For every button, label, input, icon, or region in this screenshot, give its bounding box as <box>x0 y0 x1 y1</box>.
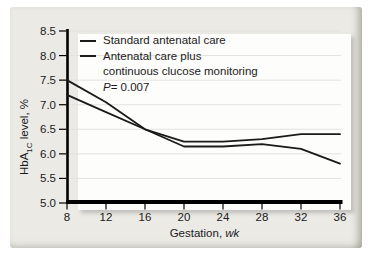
x-axis-title-text: Gestation, <box>170 227 226 239</box>
x-axis-title: Gestation, wk <box>68 227 341 239</box>
y-tick-label: 8.0 <box>40 50 56 62</box>
x-tick-label: 12 <box>100 211 113 223</box>
x-tick-label: 8 <box>64 211 70 223</box>
p-value-annotation: P = 0.007 <box>80 80 258 96</box>
legend-item-standard-care: Standard antenatal care <box>80 33 258 49</box>
x-tick-label: 16 <box>139 211 152 223</box>
legend-label-cgm-line1: Antenatal care plus <box>103 49 201 65</box>
x-tick-label: 20 <box>178 211 191 223</box>
p-value-symbol: P <box>103 80 111 96</box>
y-tick-label: 5.5 <box>40 172 56 184</box>
standard-care-line-swatch <box>80 40 96 42</box>
y-tick-label: 6.5 <box>40 123 56 135</box>
legend-label-standard-care: Standard antenatal care <box>103 33 226 49</box>
x-tick-label: 24 <box>217 211 230 223</box>
y-tick-label: 5.0 <box>40 197 56 209</box>
p-value-text: = 0.007 <box>111 80 150 96</box>
x-axis-title-unit: wk <box>225 227 239 239</box>
y-tick-label: 8.5 <box>40 25 56 37</box>
y-tick-label: 7.0 <box>40 99 56 111</box>
x-tick-label: 32 <box>295 211 308 223</box>
y-tick-label: 7.5 <box>40 74 56 86</box>
x-tick-label: 28 <box>256 211 269 223</box>
y-axis-title: HbA1C level, % <box>18 99 33 175</box>
series-line-standard-care <box>67 95 340 142</box>
y-axis-title-subscript: 1C <box>25 142 34 152</box>
legend-label-cgm-line2: continuous clucose monitoring <box>103 64 258 80</box>
x-tick-label: 36 <box>334 211 347 223</box>
legend-item-cgm-wrap: continuous clucose monitoring <box>80 64 258 80</box>
y-tick-label: 6.0 <box>40 148 56 160</box>
legend-item-cgm: Antenatal care plus <box>80 49 258 65</box>
legend: Standard antenatal care Antenatal care p… <box>80 33 258 95</box>
y-axis-title-prefix: HbA <box>18 153 30 175</box>
y-axis-title-suffix: level, % <box>18 99 30 142</box>
cgm-line-swatch <box>80 55 96 57</box>
